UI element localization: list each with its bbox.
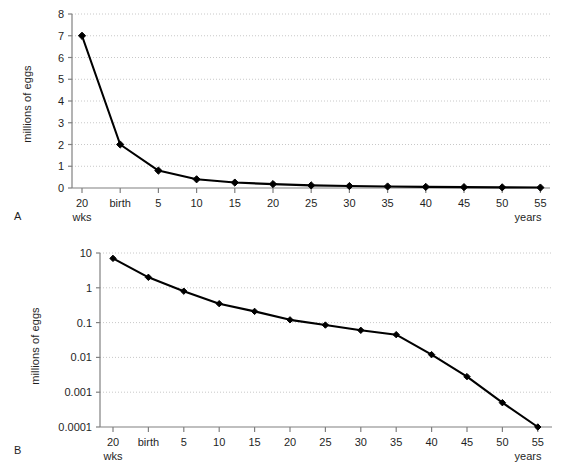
x-axis-tick-label: birth bbox=[109, 197, 130, 209]
x-axis-tick-label: 10 bbox=[213, 436, 225, 448]
chart-panel-a: A millions of eggs 01234567820wksbirth51… bbox=[0, 0, 566, 237]
panel-a-plot-area: 01234567820wksbirth510152025303540455055… bbox=[0, 0, 566, 237]
x-axis-tick-label: 40 bbox=[420, 197, 432, 209]
x-axis-tick-label: 20 bbox=[284, 436, 296, 448]
x-axis-tick-label: 5 bbox=[181, 436, 187, 448]
data-point-marker bbox=[216, 300, 222, 306]
y-axis-tick-label: 8 bbox=[58, 8, 64, 20]
x-axis-tick-label: 25 bbox=[305, 197, 317, 209]
x-axis-unit-label: years bbox=[515, 450, 542, 462]
y-axis-tick-label: 5 bbox=[58, 73, 64, 85]
x-axis-tick-label: 20 bbox=[107, 436, 119, 448]
x-axis-tick-label: 15 bbox=[248, 436, 260, 448]
chart-panel-b: B millions of eggs 1010.10.010.0010.0001… bbox=[0, 237, 566, 474]
x-axis-tick-label: 50 bbox=[496, 197, 508, 209]
x-axis-tick-label: 20 bbox=[267, 197, 279, 209]
data-point-marker bbox=[422, 183, 429, 190]
y-axis-tick-label: 3 bbox=[58, 117, 64, 129]
data-point-marker bbox=[358, 327, 364, 333]
data-series-line bbox=[82, 36, 540, 188]
data-point-marker bbox=[287, 317, 293, 323]
y-axis-tick-label: 7 bbox=[58, 30, 64, 42]
x-axis-tick-label: 5 bbox=[155, 197, 161, 209]
data-point-marker bbox=[78, 32, 85, 39]
x-axis-tick-label: 35 bbox=[381, 197, 393, 209]
x-axis-tick-label: 45 bbox=[458, 197, 470, 209]
y-axis-tick-label: 1 bbox=[86, 282, 92, 294]
data-point-marker bbox=[537, 184, 544, 191]
x-axis-tick-label: 55 bbox=[534, 197, 546, 209]
x-axis-tick-label: 55 bbox=[532, 436, 544, 448]
data-point-marker bbox=[251, 308, 257, 314]
x-axis-tick-label: 10 bbox=[190, 197, 202, 209]
data-point-marker bbox=[322, 322, 328, 328]
x-axis-tick-label: 40 bbox=[425, 436, 437, 448]
y-axis-tick-label: 4 bbox=[58, 95, 64, 107]
x-axis-tick-subnote: wks bbox=[103, 450, 123, 462]
y-axis-tick-label: 6 bbox=[58, 52, 64, 64]
data-point-marker bbox=[181, 288, 187, 294]
x-axis-tick-label: birth bbox=[138, 436, 159, 448]
x-axis-tick-label: 35 bbox=[390, 436, 402, 448]
data-point-marker bbox=[499, 184, 506, 191]
y-axis-tick-label: 0.0001 bbox=[58, 421, 92, 433]
data-series-line bbox=[113, 258, 538, 427]
y-axis-tick-label: 10 bbox=[80, 247, 92, 259]
data-point-marker bbox=[269, 180, 276, 187]
x-axis-tick-label: 30 bbox=[355, 436, 367, 448]
data-point-marker bbox=[384, 183, 391, 190]
data-point-marker bbox=[231, 179, 238, 186]
x-axis-tick-label: 25 bbox=[319, 436, 331, 448]
panel-b-plot-area: 1010.10.010.0010.000120wksbirth510152025… bbox=[0, 237, 566, 474]
y-axis-tick-label: 1 bbox=[58, 160, 64, 172]
y-axis-tick-label: 2 bbox=[58, 139, 64, 151]
x-axis-tick-subnote: wks bbox=[72, 211, 92, 223]
x-axis-unit-label: years bbox=[515, 211, 542, 223]
x-axis-tick-label: 45 bbox=[461, 436, 473, 448]
x-axis-tick-label: 20 bbox=[76, 197, 88, 209]
x-axis-tick-label: 30 bbox=[343, 197, 355, 209]
y-axis-tick-label: 0 bbox=[58, 182, 64, 194]
x-axis-tick-label: 15 bbox=[229, 197, 241, 209]
y-axis-tick-label: 0.001 bbox=[64, 386, 92, 398]
data-point-marker bbox=[193, 176, 200, 183]
data-point-marker bbox=[460, 184, 467, 191]
y-axis-tick-label: 0.1 bbox=[77, 317, 92, 329]
y-axis-tick-label: 0.01 bbox=[71, 351, 92, 363]
x-axis-tick-label: 50 bbox=[496, 436, 508, 448]
